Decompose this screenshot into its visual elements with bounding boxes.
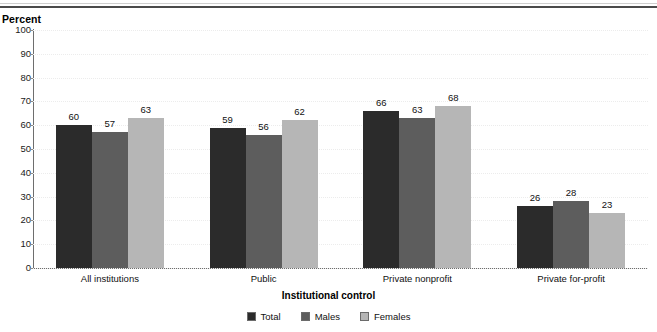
legend-label: Total (261, 312, 281, 322)
y-axis-tick (30, 268, 33, 269)
y-axis-tick-label: 60 (5, 120, 31, 130)
y-axis-tick-label: 30 (5, 192, 31, 202)
y-axis-tick-label: 50 (5, 144, 31, 154)
chart-figure: Percent 0102030405060708090100 605763595… (0, 0, 657, 332)
bar (435, 106, 471, 268)
y-axis-tick (30, 149, 33, 150)
y-axis-tick (30, 220, 33, 221)
bar-value-label: 28 (553, 188, 589, 198)
legend-item[interactable]: Males (301, 312, 340, 322)
bar (399, 118, 435, 268)
bar-value-label: 60 (56, 112, 92, 122)
bar-value-label: 62 (282, 107, 318, 117)
y-axis-tick-label: 90 (5, 49, 31, 59)
y-axis-tick (30, 101, 33, 102)
bar (517, 206, 553, 268)
x-axis-category-label: Private nonprofit (341, 273, 495, 284)
chart-legend: TotalMalesFemales (0, 312, 657, 322)
y-axis-tick (30, 244, 33, 245)
y-axis-tick (30, 197, 33, 198)
bar-value-label: 63 (399, 105, 435, 115)
legend-item[interactable]: Total (247, 312, 281, 322)
bar-value-label: 59 (210, 115, 246, 125)
bar (92, 132, 128, 268)
bar-value-label: 26 (517, 193, 553, 203)
y-axis-tick-label: 0 (5, 263, 31, 273)
plot-area: 605763595662666368262823 (33, 30, 648, 268)
x-axis-category-label: All institutions (33, 273, 187, 284)
y-axis-tick (30, 125, 33, 126)
bar-value-label: 56 (246, 122, 282, 132)
bar (589, 213, 625, 268)
y-axis-tick-label: 80 (5, 73, 31, 83)
x-axis-category-label: Public (187, 273, 341, 284)
y-axis-tick (30, 173, 33, 174)
header-hairline (0, 3, 657, 4)
header-rule (0, 6, 657, 8)
x-axis-category-label: Private for-profit (494, 273, 648, 284)
legend-label: Females (374, 312, 410, 322)
bar (128, 118, 164, 268)
y-axis-tick-label: 10 (5, 239, 31, 249)
bar-value-label: 66 (363, 98, 399, 108)
gridline (33, 78, 648, 80)
bar-value-label: 68 (435, 93, 471, 103)
y-axis-tick-label: 40 (5, 168, 31, 178)
bar (246, 135, 282, 268)
legend-swatch-icon (247, 312, 256, 321)
bar (282, 120, 318, 268)
y-axis-tick-label: 70 (5, 97, 31, 107)
y-axis-tick (30, 54, 33, 55)
legend-swatch-icon (360, 312, 369, 321)
gridline (33, 30, 648, 32)
bar-value-label: 57 (92, 119, 128, 129)
gridline (33, 101, 648, 103)
bar (210, 128, 246, 268)
legend-swatch-icon (301, 312, 310, 321)
bar (56, 125, 92, 268)
bar-value-label: 23 (589, 200, 625, 210)
y-axis-tick (30, 78, 33, 79)
y-axis-tick-label: 100 (5, 25, 31, 35)
legend-label: Males (315, 312, 340, 322)
gridline (33, 268, 648, 270)
y-axis-tick (30, 30, 33, 31)
legend-item[interactable]: Females (360, 312, 410, 322)
y-axis-tick-labels: 0102030405060708090100 (0, 0, 31, 332)
bar (553, 201, 589, 268)
bar (363, 111, 399, 268)
bar-value-label: 63 (128, 105, 164, 115)
y-axis-tick-label: 20 (5, 216, 31, 226)
gridline (33, 54, 648, 56)
x-axis-title: Institutional control (0, 290, 657, 301)
